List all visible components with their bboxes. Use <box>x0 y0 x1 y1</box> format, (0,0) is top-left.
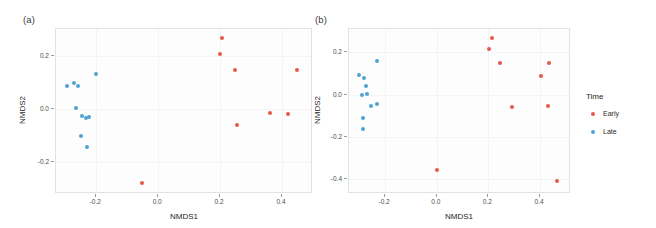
data-point-late <box>72 81 76 85</box>
legend-item-label: Late <box>603 128 617 135</box>
panel-b-plot-area <box>348 28 570 193</box>
y-tick-label: 0.2 <box>25 51 49 58</box>
gridline-horizontal <box>349 137 569 138</box>
x-tick-mark <box>95 194 96 197</box>
panel-a: (a) -0.20.00.20.40.20.0-0.2 NMDS1 NMDS2 <box>0 0 320 228</box>
x-tick-label: -0.2 <box>90 198 101 205</box>
gridline-vertical <box>282 29 283 192</box>
x-tick-mark <box>281 194 282 197</box>
x-tick-mark <box>436 194 437 197</box>
gridline-horizontal <box>56 162 311 163</box>
data-point-late <box>79 134 83 138</box>
legend-item-late[interactable]: Late <box>586 125 619 138</box>
x-tick-label: -0.2 <box>378 198 389 205</box>
gridline-horizontal <box>56 56 311 57</box>
data-point-early <box>233 68 237 72</box>
y-tick-mark <box>344 136 347 137</box>
data-point-early <box>295 68 299 72</box>
data-point-early <box>510 105 514 109</box>
x-tick-mark <box>219 194 220 197</box>
data-point-late <box>94 72 98 76</box>
data-point-late <box>361 127 365 131</box>
gridline-vertical <box>488 29 489 192</box>
y-tick-mark <box>51 108 54 109</box>
panel-b-label: (b) <box>315 14 327 25</box>
data-point-early <box>218 52 222 56</box>
legend-item-early[interactable]: Early <box>586 107 619 120</box>
gridline-vertical <box>385 29 386 192</box>
y-tick-label: -0.4 <box>318 175 342 182</box>
data-point-early <box>487 47 491 51</box>
x-tick-mark <box>384 194 385 197</box>
panel-a-plot-area <box>55 28 312 193</box>
y-tick-label: 0.0 <box>25 104 49 111</box>
panel-a-ylabel: NMDS2 <box>18 96 27 124</box>
y-tick-mark <box>344 94 347 95</box>
y-tick-mark <box>51 55 54 56</box>
data-point-early <box>435 168 439 172</box>
legend-item-label: Early <box>603 110 619 117</box>
data-point-early <box>539 74 543 78</box>
data-point-late <box>375 59 379 63</box>
data-point-late <box>361 116 365 120</box>
panel-a-xlabel: NMDS1 <box>170 212 198 221</box>
gridline-horizontal <box>349 95 569 96</box>
y-tick-label: -0.2 <box>318 132 342 139</box>
gridline-horizontal <box>56 109 311 110</box>
x-tick-label: 0.2 <box>483 198 492 205</box>
x-tick-label: 0.0 <box>153 198 162 205</box>
data-point-late <box>365 92 369 96</box>
data-point-late <box>362 76 366 80</box>
x-tick-label: 0.0 <box>431 198 440 205</box>
data-point-early <box>555 179 559 183</box>
x-tick-mark <box>487 194 488 197</box>
panel-b-ylabel: NMDS2 <box>313 96 322 124</box>
data-point-late <box>84 116 88 120</box>
data-point-late <box>85 145 89 149</box>
data-point-late <box>76 84 80 88</box>
data-point-late <box>360 93 364 97</box>
x-tick-mark <box>157 194 158 197</box>
data-point-late <box>74 106 78 110</box>
figure-root: (a) -0.20.00.20.40.20.0-0.2 NMDS1 NMDS2 … <box>0 0 656 228</box>
y-tick-label: 0.2 <box>318 48 342 55</box>
x-tick-label: 0.4 <box>534 198 543 205</box>
legend-title: Time <box>586 92 619 101</box>
gridline-horizontal <box>349 52 569 53</box>
legend-key-icon <box>586 125 599 138</box>
data-point-late <box>375 102 379 106</box>
gridline-vertical <box>540 29 541 192</box>
data-point-early <box>140 181 144 185</box>
data-point-late <box>369 104 373 108</box>
data-point-early <box>286 112 290 116</box>
gridline-vertical <box>96 29 97 192</box>
x-tick-label: 0.2 <box>215 198 224 205</box>
data-point-late <box>65 84 69 88</box>
data-point-early <box>498 61 502 65</box>
data-point-early <box>547 61 551 65</box>
x-tick-label: 0.4 <box>276 198 285 205</box>
y-tick-mark <box>344 51 347 52</box>
legend: Time EarlyLate <box>586 92 619 143</box>
legend-key-icon <box>586 107 599 120</box>
y-tick-mark <box>51 161 54 162</box>
panel-b-xlabel: NMDS1 <box>445 212 473 221</box>
data-point-early <box>268 111 272 115</box>
y-tick-label: -0.2 <box>25 158 49 165</box>
y-tick-mark <box>344 178 347 179</box>
panel-a-label: (a) <box>23 14 35 25</box>
x-tick-mark <box>539 194 540 197</box>
data-point-early <box>235 123 239 127</box>
data-point-early <box>490 36 494 40</box>
data-point-early <box>220 36 224 40</box>
data-point-early <box>546 104 550 108</box>
data-point-late <box>364 84 368 88</box>
gridline-vertical <box>158 29 159 192</box>
data-point-late <box>357 73 361 77</box>
gridline-horizontal <box>349 179 569 180</box>
